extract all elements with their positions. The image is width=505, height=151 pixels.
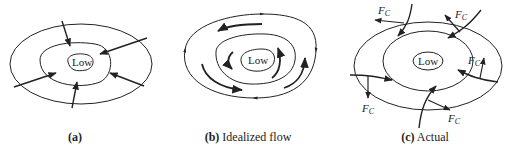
- fc-label: FC: [447, 112, 461, 126]
- low-label-b: Low: [248, 54, 268, 66]
- caption-text: Idealized flow: [222, 130, 291, 144]
- low-label-c: Low: [418, 55, 438, 67]
- fc-label: FC: [467, 54, 481, 68]
- caption-a: (a): [68, 130, 82, 145]
- fc-label: FC: [377, 4, 391, 18]
- low-pressure-diagram: Low Low Low: [0, 0, 505, 151]
- caption-letter: (c): [401, 130, 414, 144]
- caption-text: Actual: [417, 130, 449, 144]
- low-label-a: Low: [72, 56, 92, 68]
- caption-c: (c) Actual: [401, 130, 449, 145]
- fc-label: FC: [361, 102, 375, 116]
- fc-label: FC: [454, 8, 468, 22]
- caption-letter: (b): [205, 130, 220, 144]
- caption-b: (b) Idealized flow: [205, 130, 292, 145]
- caption-letter: (a): [68, 130, 82, 144]
